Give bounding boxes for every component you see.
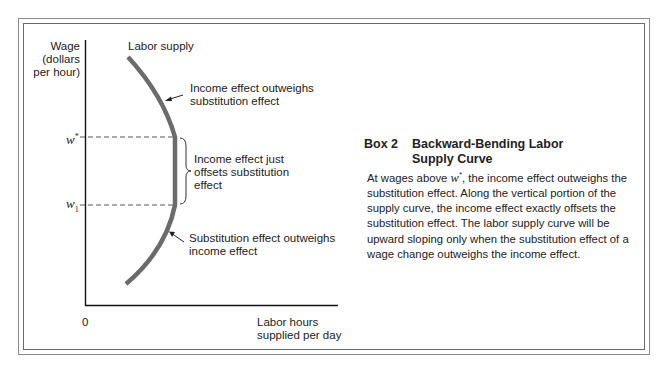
annotation-top-line2: substitution effect bbox=[190, 95, 314, 108]
box-number: Box 2 bbox=[364, 137, 412, 152]
y-axis-label-line2: (dollars bbox=[22, 53, 80, 66]
tick-w-star: w* bbox=[66, 130, 79, 146]
box-body-post: , the income effect outweighs the substi… bbox=[367, 172, 629, 260]
labor-supply-curve bbox=[126, 57, 175, 284]
annotation-middle-line3: effect bbox=[194, 179, 289, 192]
box-title: Box 2Backward-Bending Labor Supply Curve bbox=[364, 137, 563, 167]
x-axis-label-line2: supplied per day bbox=[257, 329, 341, 342]
arrowhead-top-icon bbox=[165, 97, 172, 102]
curve-label: Labor supply bbox=[128, 40, 194, 53]
tick-w1-var: w bbox=[66, 196, 75, 211]
box-title-line2: Supply Curve bbox=[364, 152, 563, 167]
x-axis-label-line1: Labor hours bbox=[257, 316, 341, 329]
annotation-middle-line2: offsets substitution bbox=[194, 166, 289, 179]
y-axis-label: Wage (dollars per hour) bbox=[22, 40, 80, 79]
tick-w1-sub: 1 bbox=[75, 205, 79, 214]
box-body-var: w bbox=[451, 171, 459, 185]
annotation-bottom-line2: income effect bbox=[189, 245, 335, 258]
origin-label: 0 bbox=[82, 316, 88, 329]
box-title-line1: Backward-Bending Labor bbox=[412, 137, 563, 152]
annotation-top-line1: Income effect outweighs bbox=[190, 82, 314, 95]
y-axis-label-line3: per hour) bbox=[22, 66, 80, 79]
tick-w1: w1 bbox=[66, 197, 79, 216]
y-axis-label-line1: Wage bbox=[22, 40, 80, 53]
annotation-bottom-line1: Substitution effect outweighs bbox=[189, 232, 335, 245]
brace-icon bbox=[180, 138, 191, 204]
box-body-text: At wages above w*, the income effect out… bbox=[367, 167, 637, 262]
annotation-bottom: Substitution effect outweighs income eff… bbox=[189, 232, 335, 258]
x-axis-label: Labor hours supplied per day bbox=[257, 316, 341, 342]
annotation-middle-line1: Income effect just bbox=[194, 153, 289, 166]
tick-w-star-var: w bbox=[66, 132, 75, 147]
annotation-top: Income effect outweighs substitution eff… bbox=[190, 82, 314, 108]
arrowhead-bottom-icon bbox=[169, 232, 175, 238]
tick-w-star-sup: * bbox=[75, 132, 79, 141]
box-body-pre: At wages above bbox=[367, 172, 451, 184]
annotation-middle: Income effect just offsets substitution … bbox=[194, 153, 289, 192]
